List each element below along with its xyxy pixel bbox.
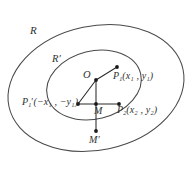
point-dot-O: [94, 78, 98, 82]
geometry-canvas: [0, 0, 193, 171]
label-P1-coords: (x₁ , y₁): [122, 70, 153, 81]
label-origin-O: O: [83, 70, 91, 81]
label-point-P1-prime: P1′(−x₁ , −y₁): [22, 97, 78, 108]
segment-O-to-P1-prime: [78, 80, 96, 104]
label-outer-region-R: R: [30, 25, 37, 36]
label-point-P2: P2(x₂ , y₂): [117, 105, 157, 116]
label-inner-region-R-prime: R′: [52, 54, 61, 65]
geometry-figure: R R′ O M M′ P1(x₁ , y₁) P1′(−x₁ , −y₁) P…: [0, 0, 193, 171]
label-P1-prime-coords: (−x₁ , −y₁): [34, 96, 79, 107]
point-dot-P1: [115, 65, 119, 69]
label-point-P1: P1(x₁ , y₁): [113, 71, 153, 82]
label-point-M: M: [94, 106, 102, 116]
point-dot-M-prime: [94, 129, 98, 133]
label-point-M-prime: M′: [89, 135, 100, 145]
label-P2-coords: (x₂ , y₂): [126, 104, 157, 115]
